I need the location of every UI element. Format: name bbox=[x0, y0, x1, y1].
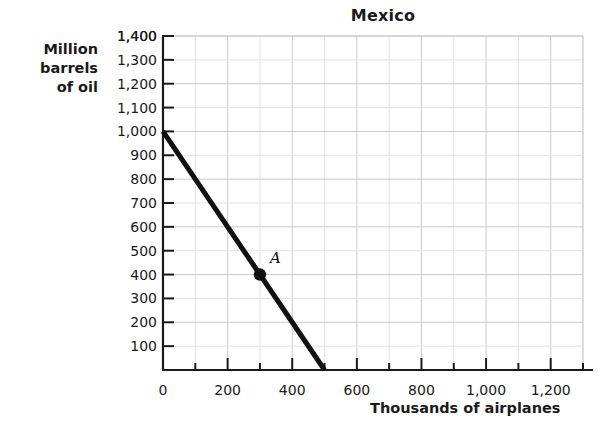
y-axis-tick-label: 1,400 bbox=[101, 29, 157, 43]
chart-title-text: Mexico bbox=[201, 6, 415, 25]
chart-figure: Mexico Million barrels of oil Thousands … bbox=[0, 0, 616, 448]
y-axis-tick-label: 100 bbox=[101, 339, 157, 353]
y-axis-tick-label: 800 bbox=[101, 172, 157, 186]
y-axis-tick-label: 1,300 bbox=[101, 53, 157, 67]
x-axis-tick-label: 800 bbox=[408, 383, 435, 397]
y-axis-tick-label: 900 bbox=[101, 148, 157, 162]
y-axis-tick-label: 300 bbox=[101, 291, 157, 305]
y-axis-tick-label: 1,100 bbox=[101, 101, 157, 115]
y-axis-label-line-2: barrels bbox=[18, 59, 98, 78]
y-axis-label: Million barrels of oil bbox=[18, 40, 98, 97]
x-axis-label: Thousands of airplanes bbox=[370, 400, 610, 416]
y-axis-tick-label: 700 bbox=[101, 196, 157, 210]
x-axis-tick-label: 600 bbox=[343, 383, 370, 397]
y-axis-tick-label: 200 bbox=[101, 315, 157, 329]
data-point-label: A bbox=[270, 249, 281, 267]
chart-title: Mexico bbox=[0, 6, 616, 25]
x-axis-tick-label: 0 bbox=[159, 383, 168, 397]
x-axis-tick-label: 1,000 bbox=[466, 383, 506, 397]
x-axis-tick-label: 1,200 bbox=[531, 383, 571, 397]
y-axis-tick-label: 600 bbox=[101, 220, 157, 234]
y-axis-label-line-1: Million bbox=[18, 40, 98, 59]
x-axis-tick-label: 400 bbox=[279, 383, 306, 397]
y-axis-tick-label: 1,000 bbox=[101, 124, 157, 138]
y-axis-tick-label: 500 bbox=[101, 244, 157, 258]
x-axis-tick-label: 200 bbox=[214, 383, 241, 397]
y-axis-tick-label: 400 bbox=[101, 268, 157, 282]
y-axis-label-line-3: of oil bbox=[18, 78, 98, 97]
y-axis-tick-label: 1,200 bbox=[101, 77, 157, 91]
data-point-marker bbox=[254, 268, 266, 280]
